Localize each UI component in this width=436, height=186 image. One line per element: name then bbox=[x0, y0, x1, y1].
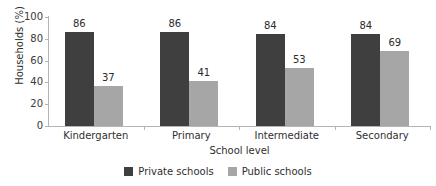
legend-item-private[interactable]: Private schools bbox=[124, 166, 213, 177]
bar-private[interactable] bbox=[351, 34, 380, 126]
bar-private[interactable] bbox=[256, 34, 285, 126]
y-tick-label: 100 bbox=[17, 12, 43, 22]
bar-value-label: 53 bbox=[279, 55, 320, 65]
plot-area: 8637864184538469 bbox=[48, 17, 430, 126]
bar-chart: Households (%) 020406080100 863786418453… bbox=[0, 0, 436, 186]
bar-value-label: 84 bbox=[250, 21, 291, 31]
legend-swatch-private-icon bbox=[124, 167, 133, 176]
y-tick-label: 60 bbox=[17, 56, 43, 66]
bar-value-label: 41 bbox=[183, 68, 224, 78]
y-tick-label: 20 bbox=[17, 99, 43, 109]
bar-public[interactable] bbox=[94, 86, 123, 126]
bar-value-label: 86 bbox=[154, 19, 195, 29]
bar-value-label: 37 bbox=[88, 73, 129, 83]
legend-label-private: Private schools bbox=[138, 166, 213, 177]
bar-public[interactable] bbox=[285, 68, 314, 126]
y-tick-label: 40 bbox=[17, 77, 43, 87]
legend-item-public[interactable]: Public schools bbox=[228, 166, 312, 177]
bar-value-label: 86 bbox=[59, 19, 100, 29]
legend-swatch-public-icon bbox=[228, 167, 237, 176]
x-axis-title: School level bbox=[48, 145, 431, 156]
y-tick-mark bbox=[45, 126, 49, 127]
x-tick-mark bbox=[430, 126, 431, 130]
chart-legend: Private schools Public schools bbox=[0, 166, 436, 177]
y-tick-label: 80 bbox=[17, 34, 43, 44]
bar-public[interactable] bbox=[189, 81, 218, 126]
bar-value-label: 69 bbox=[374, 38, 415, 48]
bar-private[interactable] bbox=[160, 32, 189, 126]
x-category-label: Secondary bbox=[325, 130, 436, 141]
bar-value-label: 84 bbox=[345, 21, 386, 31]
legend-label-public: Public schools bbox=[242, 166, 312, 177]
bar-public[interactable] bbox=[380, 51, 409, 126]
